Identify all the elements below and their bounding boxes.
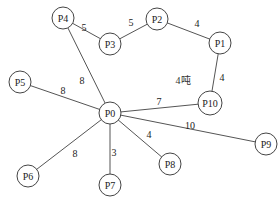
network-diagram: 554488710438 P0P1P2P3P4P5P6P7P8P9P10 4吨 xyxy=(0,0,280,201)
edge-weight-label: 10 xyxy=(185,120,195,131)
edge-weight-label: 8 xyxy=(73,148,78,159)
edge-weight-label: 3 xyxy=(112,147,117,158)
nodes-layer: P0P1P2P3P4P5P6P7P8P9P10 xyxy=(9,7,277,196)
node-label: P9 xyxy=(261,139,272,150)
edge-p0-p8 xyxy=(110,113,170,164)
node-label: P5 xyxy=(15,77,26,88)
edge-weight-label: 5 xyxy=(82,22,87,33)
node-label: P8 xyxy=(165,159,176,170)
node-label: P0 xyxy=(105,108,116,119)
node-p8: P8 xyxy=(159,153,181,175)
node-label: P6 xyxy=(23,171,34,182)
edge-weight-label: 4 xyxy=(147,129,152,140)
node-p1: P1 xyxy=(209,32,231,54)
node-p10: P10 xyxy=(198,91,222,115)
node-p3: P3 xyxy=(99,33,121,55)
node-label: P7 xyxy=(105,180,116,191)
capacity-caption: 4吨 xyxy=(176,74,191,86)
node-label: P4 xyxy=(58,13,69,24)
node-label: P10 xyxy=(202,98,218,109)
edge-weight-label: 8 xyxy=(61,85,66,96)
node-p0: P0 xyxy=(99,102,121,124)
edge-weight-label: 7 xyxy=(157,96,162,107)
node-p9: P9 xyxy=(255,133,277,155)
node-label: P2 xyxy=(152,14,163,25)
node-p7: P7 xyxy=(99,174,121,196)
node-p6: P6 xyxy=(17,165,39,187)
node-label: P3 xyxy=(105,39,116,50)
edge-weight-label: 8 xyxy=(80,75,85,86)
node-label: P1 xyxy=(215,38,226,49)
node-p5: P5 xyxy=(9,71,31,93)
edge-weights-layer: 554488710438 xyxy=(61,17,225,159)
edge-weight-label: 4 xyxy=(220,72,225,83)
edge-weight-label: 5 xyxy=(129,17,134,28)
edge-p0-p6 xyxy=(28,113,110,176)
edge-weight-label: 4 xyxy=(195,18,200,29)
node-p2: P2 xyxy=(146,8,168,30)
node-p4: P4 xyxy=(52,7,74,29)
